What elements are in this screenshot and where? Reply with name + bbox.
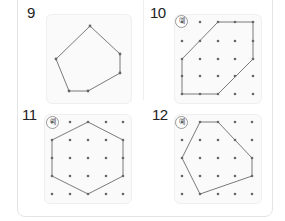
problem-12-figure: [181, 121, 254, 196]
vertex-dot: [87, 90, 90, 93]
grid-dot: [69, 175, 72, 178]
grid-dot: [181, 193, 184, 196]
grid-dot: [252, 75, 255, 78]
grid-dot: [251, 193, 254, 196]
vertex-dot: [55, 58, 58, 61]
grid-dot: [234, 93, 237, 96]
grid-dot: [51, 193, 54, 196]
vertex-dot: [119, 72, 122, 75]
grid-dot: [251, 121, 254, 124]
grid-dot: [87, 175, 90, 178]
polygon-drawings: [0, 0, 285, 221]
grid-dot: [69, 139, 72, 142]
grid-dot: [217, 193, 220, 196]
grid-dot: [199, 58, 202, 61]
grid-dot: [181, 139, 184, 142]
grid-dot: [181, 175, 184, 178]
vertex-dot: [89, 25, 92, 28]
grid-dot: [217, 58, 220, 61]
grid-dot: [199, 175, 202, 178]
grid-dot: [105, 157, 108, 160]
grid-dot: [87, 139, 90, 142]
grid-dot: [234, 121, 237, 124]
grid-dot: [217, 139, 220, 142]
vertex-dot: [119, 53, 122, 56]
grid-dot: [181, 21, 184, 24]
grid-dot: [122, 193, 125, 196]
grid-dot: [252, 93, 255, 96]
grid-dot: [105, 175, 108, 178]
grid-dot: [217, 40, 220, 43]
grid-dot: [122, 121, 125, 124]
grid-dot: [199, 139, 202, 142]
grid-dot: [181, 40, 184, 43]
grid-dot: [199, 75, 202, 78]
polygon-outline: [56, 26, 120, 91]
grid-dot: [199, 157, 202, 160]
grid-dot: [234, 157, 237, 160]
grid-dot: [69, 157, 72, 160]
grid-dot: [234, 193, 237, 196]
problem-10-figure: [181, 21, 255, 96]
grid-dot: [105, 139, 108, 142]
problem-11-figure: [51, 121, 125, 196]
grid-dot: [51, 121, 54, 124]
grid-dot: [199, 21, 202, 24]
grid-dot: [181, 121, 184, 124]
grid-dot: [69, 193, 72, 196]
grid-dot: [217, 175, 220, 178]
grid-dot: [234, 175, 237, 178]
grid-dot: [69, 121, 72, 124]
grid-dot: [217, 157, 220, 160]
grid-dot: [105, 193, 108, 196]
grid-dot: [251, 139, 254, 142]
grid-dot: [217, 75, 220, 78]
problem-9-figure: [55, 25, 122, 93]
grid-dot: [87, 157, 90, 160]
vertex-dot: [68, 90, 71, 93]
grid-dot: [234, 40, 237, 43]
grid-dot: [234, 58, 237, 61]
grid-dot: [105, 121, 108, 124]
